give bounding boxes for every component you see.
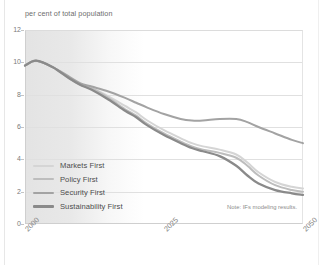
y-axis-title: per cent of total population: [25, 9, 113, 18]
legend-item-label: Sustainability First: [60, 202, 123, 211]
y-axis-tick-mark: [21, 95, 24, 96]
chart-note: Note: IFs modeling results.: [227, 204, 297, 210]
legend-item[interactable]: Sustainability First: [33, 200, 143, 214]
legend-item[interactable]: Markets First: [33, 159, 143, 173]
y-axis-tick-label: 10: [13, 58, 21, 65]
legend-item-label: Markets First: [60, 161, 105, 170]
y-axis-tick-mark: [21, 159, 24, 160]
legend-swatch: [33, 192, 54, 194]
legend-swatch: [33, 205, 54, 208]
chart-page: per cent of total population 121086420 2…: [0, 0, 321, 265]
legend-item-label: Policy First: [60, 175, 98, 184]
y-axis-tick-mark: [21, 62, 24, 63]
y-axis-tick-label: 12: [13, 26, 21, 33]
x-axis-tick-labels: 200020252050: [0, 224, 321, 265]
y-axis-tick-labels: 121086420: [0, 30, 21, 224]
legend-swatch: [33, 165, 54, 167]
y-axis-tick-mark: [21, 30, 24, 31]
legend-swatch: [33, 178, 54, 180]
legend-item-label: Security First: [60, 188, 105, 197]
legend-item[interactable]: Security First: [33, 186, 143, 200]
legend-item[interactable]: Policy First: [33, 173, 143, 187]
x-axis-tick-label: 2050: [301, 215, 319, 233]
y-axis-tick-mark: [21, 192, 24, 193]
y-axis-tick-mark: [21, 127, 24, 128]
legend: Markets FirstPolicy FirstSecurity FirstS…: [33, 159, 143, 213]
